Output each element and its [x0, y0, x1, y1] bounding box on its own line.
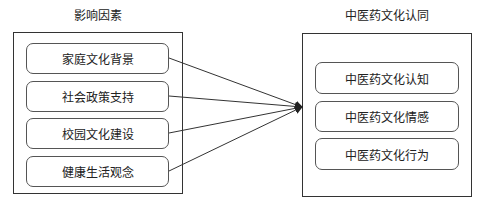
edge-arrow [169, 107, 302, 133]
edge-layer [0, 0, 484, 208]
edge-arrow [169, 58, 302, 107]
edge-arrow [169, 107, 302, 171]
edge-arrow [169, 96, 302, 107]
